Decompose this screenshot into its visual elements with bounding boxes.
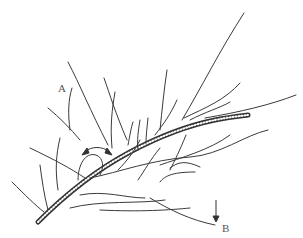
- label-b: B: [222, 222, 229, 234]
- label-a: A: [58, 82, 66, 94]
- bend-arrow-icon: [82, 148, 112, 156]
- down-arrow-icon: [213, 200, 219, 222]
- stem-drawing: [0, 0, 303, 238]
